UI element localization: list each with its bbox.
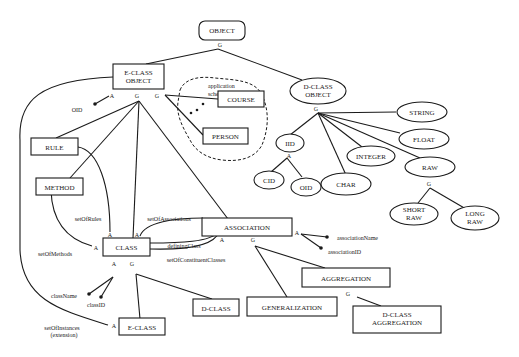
edge-assoc-generalization <box>255 246 287 297</box>
node-association[interactable]: ASSOCIATION <box>202 218 292 236</box>
g-marker-eco-1: G <box>135 93 140 99</box>
edge-oid-attr <box>95 96 109 104</box>
g-marker-class: G <box>130 261 135 267</box>
classname-dot <box>87 292 91 296</box>
node-string[interactable]: STRING <box>397 102 447 122</box>
node-iid[interactable]: IID <box>276 134 304 152</box>
edge-eco-association <box>139 101 228 219</box>
label-extension: (extension) <box>51 332 78 339</box>
edge-dco-string <box>318 112 396 113</box>
svg-text:D-CLASS: D-CLASS <box>201 305 230 313</box>
node-long-raw[interactable]: LONG RAW <box>451 206 499 230</box>
association-id-dot <box>319 246 323 250</box>
label-set-of-instances: setOfInstances <box>44 325 80 331</box>
label-set-of-associations: setOfAssociations <box>147 216 191 222</box>
edge-dco-char <box>318 113 346 175</box>
node-eclass-object[interactable]: E-CLASS OBJECT <box>113 64 164 89</box>
svg-text:PERSON: PERSON <box>212 133 239 141</box>
edge-classid <box>101 277 113 297</box>
edge-classname <box>89 277 113 294</box>
application-schema-label: application <box>208 83 235 89</box>
node-aggregation[interactable]: AGGREGATION <box>302 268 390 287</box>
node-class[interactable]: CLASS <box>103 238 150 256</box>
edge-iid-oid <box>287 158 302 177</box>
node-integer[interactable]: INTEGER <box>347 146 395 166</box>
node-rule[interactable]: RULE <box>31 138 78 155</box>
svg-text:ASSOCIATION: ASSOCIATION <box>224 224 270 232</box>
svg-text:E-CLASS: E-CLASS <box>128 324 157 332</box>
node-course[interactable]: COURSE <box>218 91 264 107</box>
node-generalization[interactable]: GENERALIZATION <box>247 297 337 316</box>
node-oid[interactable]: OID <box>291 178 321 196</box>
edge-dco-iid <box>290 113 318 135</box>
label-defining-class: definingClass <box>168 243 202 249</box>
g-marker-dco: G <box>314 106 319 112</box>
node-method[interactable]: METHOD <box>36 178 83 195</box>
svg-text:RAW: RAW <box>406 214 422 222</box>
schema-diagram: OBJECT E-CLASS OBJECT D-CLASS OBJECT app… <box>0 0 519 357</box>
svg-text:RULE: RULE <box>45 144 63 152</box>
node-float[interactable]: FLOAT <box>399 129 449 149</box>
label-association-name: associationName <box>337 235 378 241</box>
oid-attr-dot <box>93 102 97 106</box>
a-marker-assoc-right: A <box>295 230 300 236</box>
edge-iid-cid <box>271 158 287 172</box>
node-eclass[interactable]: E-CLASS <box>119 318 165 335</box>
g-marker-aggregation: G <box>346 291 351 297</box>
node-cid[interactable]: CID <box>254 171 284 189</box>
svg-text:CID: CID <box>263 177 275 185</box>
svg-text:RAW: RAW <box>422 164 438 172</box>
edge-object-dclassobject <box>218 49 302 80</box>
g-marker-object: G <box>218 42 223 48</box>
node-object[interactable]: OBJECT <box>199 21 245 40</box>
edge-aggregation-dclassagg <box>357 297 381 306</box>
node-raw[interactable]: RAW <box>405 157 455 177</box>
a-marker-class-attrs: A <box>112 261 117 267</box>
node-person[interactable]: PERSON <box>203 128 248 144</box>
edge-class-dclass <box>136 274 212 299</box>
edge-class-eclass <box>136 274 140 319</box>
ellipsis-dot <box>202 103 205 106</box>
svg-text:OID: OID <box>300 184 312 192</box>
svg-text:SHORT: SHORT <box>403 206 426 214</box>
a-marker-class-rules: A <box>108 232 113 238</box>
svg-text:AGGREGATION: AGGREGATION <box>321 275 371 283</box>
svg-text:INTEGER: INTEGER <box>356 153 386 161</box>
edge-raw-long <box>430 188 466 209</box>
node-dclass[interactable]: D-CLASS <box>193 299 239 316</box>
g-marker-assoc: G <box>251 237 256 243</box>
a-marker-eclass: A <box>112 323 117 329</box>
svg-text:COURSE: COURSE <box>227 96 255 104</box>
edge-eco-class <box>133 101 139 238</box>
svg-text:GENERALIZATION: GENERALIZATION <box>262 304 322 312</box>
g-marker-eco-2: G <box>155 93 160 99</box>
association-name-dot <box>325 235 329 239</box>
svg-text:OBJECT: OBJECT <box>126 77 152 85</box>
node-dclass-object[interactable]: D-CLASS OBJECT <box>290 78 346 104</box>
edge-set-of-instances <box>20 77 113 325</box>
node-dclass-aggregation[interactable]: D-CLASS AGGREGATION <box>353 306 441 333</box>
svg-text:D-CLASS: D-CLASS <box>303 83 332 91</box>
svg-text:RAW: RAW <box>467 218 483 226</box>
label-class-name: className <box>51 293 77 299</box>
node-short-raw[interactable]: SHORT RAW <box>390 203 438 225</box>
g-marker-raw: G <box>427 181 432 187</box>
label-set-of-rules: setOfRules <box>75 216 102 222</box>
edge-eco-rule <box>56 101 139 138</box>
application-schema-boundary <box>178 77 268 160</box>
svg-text:OBJECT: OBJECT <box>305 91 331 99</box>
edge-assoc-aggregation <box>255 246 325 268</box>
ellipsis-dot <box>190 112 193 115</box>
svg-text:LONG: LONG <box>465 210 484 218</box>
label-association-id: associationID <box>328 249 362 255</box>
svg-text:FLOAT: FLOAT <box>413 136 436 144</box>
classid-dot <box>99 295 103 299</box>
label-oid: OID <box>72 107 83 113</box>
a-marker-eco: A <box>110 93 115 99</box>
svg-text:AGGREGATION: AGGREGATION <box>372 319 422 327</box>
svg-text:STRING: STRING <box>409 109 434 117</box>
svg-text:OBJECT: OBJECT <box>209 27 235 35</box>
label-set-of-constituent-classes: setOfConstituentClasses <box>167 257 226 263</box>
node-char[interactable]: CHAR <box>321 173 371 195</box>
a-marker-assoc-left: A <box>220 237 225 243</box>
